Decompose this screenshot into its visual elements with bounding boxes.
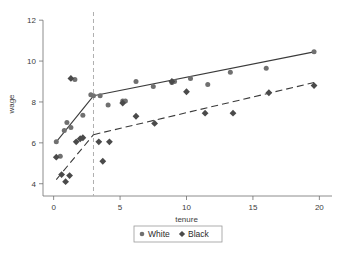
data-point-black [183,88,190,95]
x-tick-label: 15 [248,203,257,212]
x-tick-label: 10 [182,203,191,212]
data-point-white [106,103,111,108]
wage-tenure-scatter-figure: 4681012 05101520 tenure wage WhiteBlack [0,0,350,253]
fit-line-white [56,96,93,142]
data-point-black [66,172,73,179]
x-axis-ticks: 05101520 [51,196,324,212]
data-point-white [68,125,73,130]
data-point-black [106,138,113,145]
data-point-white [91,93,96,98]
y-tick-label: 8 [32,98,37,107]
chart-canvas: 4681012 05101520 tenure wage WhiteBlack [0,0,350,253]
data-point-white [64,120,69,125]
data-point-black [230,110,237,117]
y-tick-label: 10 [27,57,36,66]
y-tick-label: 6 [32,139,37,148]
data-point-white [80,113,85,118]
y-axis-ticks: 4681012 [27,16,43,189]
y-tick-label: 12 [27,16,36,25]
data-point-black [99,158,106,165]
data-point-black [133,113,140,120]
legend-label-black[interactable]: Black [188,229,210,239]
x-tick-label: 5 [118,203,123,212]
fit-lines [56,52,314,180]
x-axis-label: tenure [175,215,198,224]
x-tick-label: 20 [315,203,324,212]
data-point-white [54,139,59,144]
fit-line-black [93,83,314,135]
data-point-black [265,89,272,96]
legend-label-white[interactable]: White [148,229,170,239]
data-point-white [151,84,156,89]
legend[interactable]: WhiteBlack [134,226,222,242]
data-point-black [202,110,209,117]
data-points [53,49,318,185]
data-point-black [62,178,69,185]
data-point-white [188,76,193,81]
data-point-white [62,128,67,133]
data-point-white [264,66,269,71]
legend-marker-white [140,232,145,237]
data-point-white [98,93,103,98]
y-axis-label: wage [7,94,16,115]
data-point-white [228,70,233,75]
data-point-white [312,49,317,54]
fit-line-white [93,52,314,96]
data-point-white [134,79,139,84]
data-point-white [205,82,210,87]
data-point-black [95,138,102,145]
x-tick-label: 0 [51,203,56,212]
y-tick-label: 4 [32,180,37,189]
